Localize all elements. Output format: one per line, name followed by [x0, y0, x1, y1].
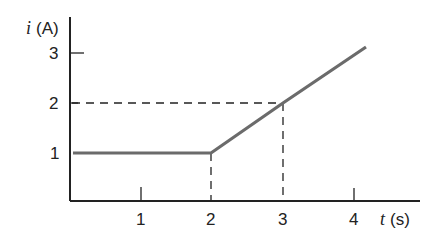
x-tick-label-2: 2: [206, 210, 215, 229]
y-axis-unit: (A): [36, 19, 59, 38]
y-tick-label-2: 2: [49, 94, 58, 113]
current-waveform-line: [73, 47, 366, 153]
x-axis-label: t(s): [380, 209, 410, 229]
x-axis-unit: (s): [390, 210, 410, 229]
x-axis-var: t: [380, 209, 386, 229]
y-tick-label-3: 3: [49, 44, 58, 63]
y-axis-label: i(A): [26, 18, 59, 38]
y-tick-label-1: 1: [50, 144, 59, 163]
y-axis-var: i: [26, 18, 31, 38]
x-tick-label-3: 3: [278, 210, 287, 229]
chart: 3 2 1 1 2 3 4 i(A) t(s): [0, 0, 437, 247]
x-tick-label-1: 1: [136, 210, 145, 229]
x-tick-label-4: 4: [349, 210, 358, 229]
